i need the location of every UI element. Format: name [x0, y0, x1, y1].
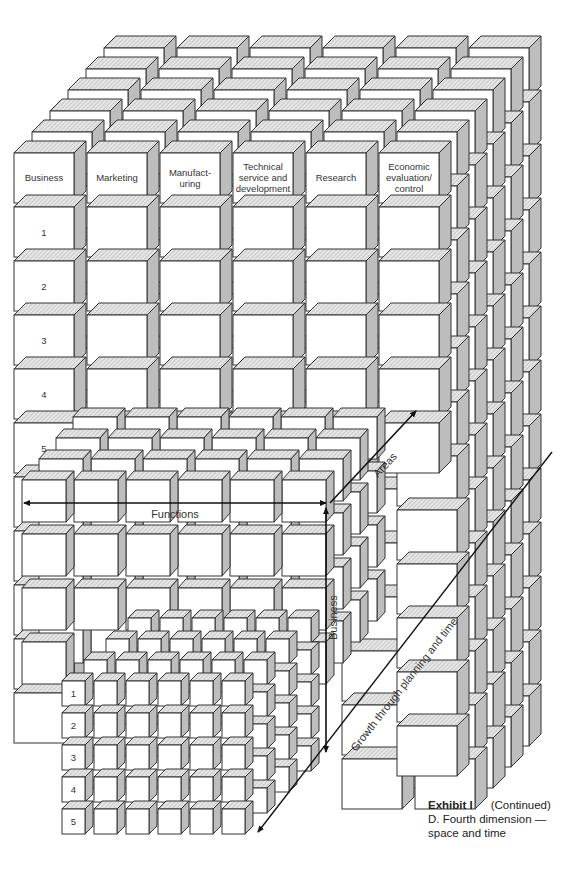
- column-header: Research: [316, 172, 357, 183]
- cube-cell: [230, 471, 282, 522]
- exhibit-label: Exhibit I: [428, 799, 473, 811]
- cube-cell: [74, 525, 126, 576]
- cube-cell: [74, 579, 126, 630]
- cube-cell: [379, 195, 451, 257]
- cube-cell: [87, 249, 159, 311]
- small-row-label: 4: [71, 784, 76, 795]
- cube-cell: [222, 705, 253, 738]
- cube-cell: 1: [14, 195, 86, 257]
- cube-cell: [22, 579, 74, 630]
- business-label: Business: [327, 595, 339, 640]
- cube-cell: [222, 737, 253, 770]
- cube-cell: Manufact-uring: [160, 141, 232, 203]
- cube-cell: [87, 303, 159, 365]
- cube-cell: [233, 249, 305, 311]
- cube-cell: [306, 303, 378, 365]
- cube-cell: [190, 769, 221, 802]
- cube-cell: [178, 525, 230, 576]
- cube-cell: Marketing: [87, 141, 159, 203]
- cube-cell: [94, 673, 125, 706]
- cube-cell: [160, 249, 232, 311]
- cube-cell: 1: [62, 673, 93, 706]
- cube-cell: [222, 801, 253, 834]
- caption-line-1: D. Fourth dimension —: [428, 812, 551, 826]
- cube-cell: [126, 801, 157, 834]
- row-label: 4: [41, 389, 46, 400]
- row-label: 3: [41, 335, 46, 346]
- cube-cell: [222, 673, 253, 706]
- cube-cell: [158, 737, 189, 770]
- cube-cell: 3: [14, 303, 86, 365]
- cube-cell: [379, 303, 451, 365]
- cube-cell: 3: [62, 737, 93, 770]
- continued-label: (Continued): [491, 799, 551, 811]
- cube-cell: [158, 705, 189, 738]
- cube-cell-back: [397, 498, 469, 560]
- cube-cell: [126, 737, 157, 770]
- cube-cell: [158, 673, 189, 706]
- cube-cell: [22, 525, 74, 576]
- cube-cell: [379, 357, 451, 419]
- cube-cell: [94, 737, 125, 770]
- cube-cell: 2: [14, 249, 86, 311]
- cube-cell: [74, 471, 126, 522]
- cube-cell: [158, 801, 189, 834]
- cube-cell: [306, 195, 378, 257]
- cube-cell: Research: [306, 141, 378, 203]
- exhibit-caption: Exhibit I(Continued) D. Fourth dimension…: [428, 798, 551, 840]
- cube-cell: [222, 769, 253, 802]
- cube-cell: [126, 705, 157, 738]
- cube-cell: [190, 737, 221, 770]
- small-row-label: 5: [71, 816, 76, 827]
- cube-cell: 2: [62, 705, 93, 738]
- cube-cell: [379, 249, 451, 311]
- cube-cell: [233, 303, 305, 365]
- cube-cell: [190, 801, 221, 834]
- cube-cell: [190, 673, 221, 706]
- cube-cell: [306, 249, 378, 311]
- small-row-label: 1: [71, 688, 76, 699]
- cube-cell: [94, 801, 125, 834]
- cube-cell: [160, 195, 232, 257]
- cube-diagram: Economicevaluation/controlResearchTechni…: [0, 0, 574, 882]
- cube-cell: [233, 195, 305, 257]
- cube-cell: Technicalservice anddevelopment: [233, 141, 305, 203]
- cube-cell: [158, 769, 189, 802]
- column-header: Business: [25, 172, 64, 183]
- column-header: Technicalservice anddevelopment: [236, 161, 291, 194]
- cube-cell: 5: [62, 801, 93, 834]
- cube-cell: [126, 673, 157, 706]
- cube-cell-back: [397, 714, 469, 776]
- cube-cell: Economicevaluation/control: [379, 141, 451, 203]
- cube-cell: [126, 769, 157, 802]
- cube-cell: [160, 303, 232, 365]
- cube-cell: [22, 471, 74, 522]
- cube-cell: [94, 705, 125, 738]
- cube-cell: 4: [62, 769, 93, 802]
- cube-cell: 4: [14, 357, 86, 419]
- small-row-label: 3: [71, 752, 76, 763]
- column-header: Marketing: [96, 172, 138, 183]
- small-row-label: 2: [71, 720, 76, 731]
- cube-cell: [190, 705, 221, 738]
- caption-line-2: space and time: [428, 826, 551, 840]
- cube-cell: [230, 525, 282, 576]
- cube-cell: [126, 525, 178, 576]
- cube-cell: [87, 195, 159, 257]
- cube-cell: [94, 769, 125, 802]
- row-label: 2: [41, 281, 46, 292]
- row-label: 1: [41, 227, 46, 238]
- cube-cell: Business: [14, 141, 86, 203]
- functions-label: Functions: [151, 508, 199, 520]
